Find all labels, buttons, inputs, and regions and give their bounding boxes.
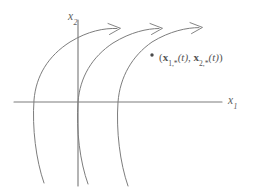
point-label-close-paren: ) (219, 51, 223, 63)
x-axis-label: x1 (228, 95, 237, 109)
figure-canvas (0, 0, 254, 196)
point-label-first-subscript: 1,* (168, 59, 178, 68)
point-label-second-subscript: 2,* (199, 59, 209, 68)
trajectory-point-marker (150, 53, 153, 56)
trajectory-point-label: (x1,*(t), x2,*(t)) (159, 52, 223, 66)
trajectory-curves-group (33, 23, 202, 186)
trajectory-curve-left (33, 28, 117, 183)
y-axis-label: x2 (68, 11, 77, 25)
phase-plane-figure: x2 x1 (x1,*(t), x2,*(t)) (0, 0, 254, 196)
point-label-second-argument: (t) (209, 51, 219, 63)
y-axis-label-subscript: 2 (73, 18, 77, 27)
point-label-first-argument: (t) (178, 51, 188, 63)
x-axis-label-subscript: 1 (233, 102, 237, 111)
